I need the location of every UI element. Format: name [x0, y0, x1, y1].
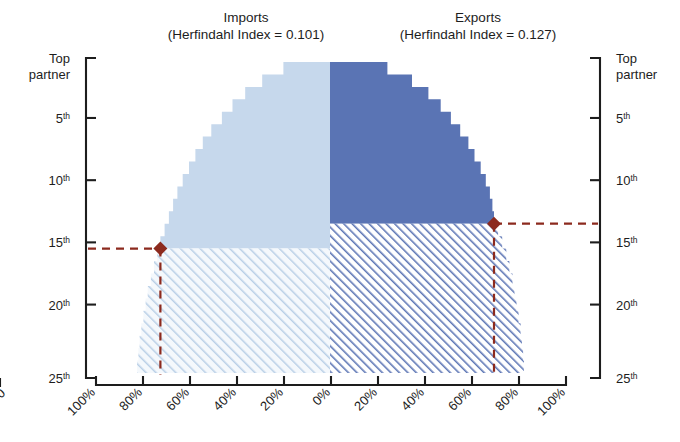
y-label-left-top-2: partner	[29, 67, 71, 82]
y-label-left-15: 15th	[48, 235, 70, 250]
y-label-left-top-1: Top	[49, 51, 70, 66]
x-label-0: 100%	[64, 384, 98, 418]
x-label-3: 40%	[210, 384, 239, 413]
imports-title-line1: Imports	[223, 10, 268, 25]
x-label-cropped: 0	[0, 386, 8, 402]
chart-titles: Imports (Herfindahl Index = 0.101) Expor…	[168, 10, 556, 42]
y-axis-left	[86, 58, 96, 378]
y-axis-right	[590, 58, 600, 378]
y-label-left-10: 10th	[48, 173, 70, 188]
imports-title-line2: (Herfindahl Index = 0.101)	[168, 27, 324, 42]
x-label-7: 40%	[398, 384, 427, 413]
y-label-right-15: 15th	[616, 235, 638, 250]
exports-title-line1: Exports	[455, 10, 501, 25]
y-label-right-20: 20th	[616, 298, 638, 313]
exports-solid-area	[330, 62, 494, 224]
y-label-right-top-2: partner	[616, 67, 658, 82]
x-label-1: 80%	[116, 384, 145, 413]
chart-figure: Imports (Herfindahl Index = 0.101) Expor…	[0, 0, 680, 442]
x-label-6: 20%	[351, 384, 380, 413]
x-label-5: 0%	[309, 384, 333, 408]
x-label-8: 60%	[445, 384, 474, 413]
y-label-right-10: 10th	[616, 173, 638, 188]
y-label-left-25: 25th	[48, 371, 70, 386]
x-label-9: 80%	[492, 384, 521, 413]
y-label-left-5: 5th	[56, 111, 71, 126]
y-label-right-25: 25th	[616, 371, 638, 386]
y-label-left-20: 20th	[48, 298, 70, 313]
x-label-10: 100%	[534, 384, 568, 418]
trade-concentration-chart: Imports (Herfindahl Index = 0.101) Expor…	[0, 0, 680, 442]
x-label-4: 20%	[257, 384, 286, 413]
y-label-right-top-1: Top	[616, 51, 637, 66]
y-label-right-5: 5th	[616, 111, 631, 126]
plot-area	[137, 62, 524, 373]
exports-title-line2: (Herfindahl Index = 0.127)	[400, 27, 556, 42]
imports-hatched-area	[137, 249, 330, 373]
x-label-2: 60%	[163, 384, 192, 413]
imports-solid-area	[160, 62, 330, 249]
